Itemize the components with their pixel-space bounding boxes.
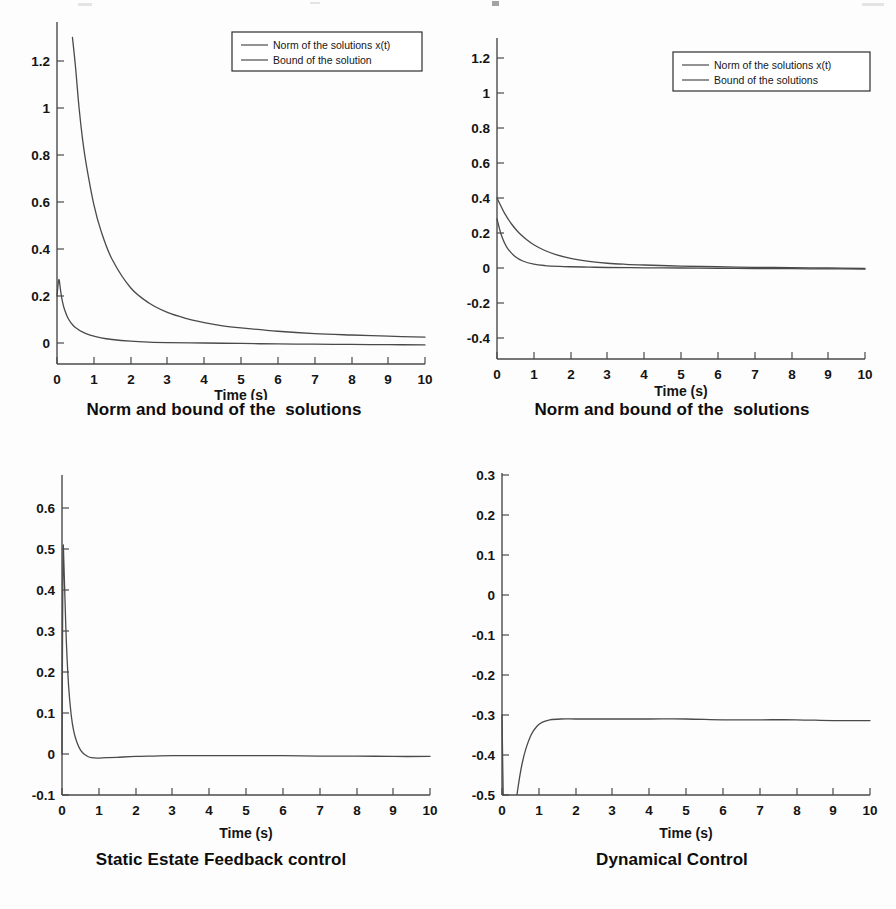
y-tick-label: 0 xyxy=(482,261,490,276)
y-tick-label: -0.2 xyxy=(467,296,490,311)
x-tick-label: 1 xyxy=(535,803,543,818)
x-tick-label: 3 xyxy=(163,372,171,387)
x-tick-label: 7 xyxy=(756,803,764,818)
x-tick-label: 9 xyxy=(384,372,392,387)
x-tick-label: 10 xyxy=(857,367,872,382)
x-tick-label: 4 xyxy=(205,803,213,818)
y-tick-label: 0.2 xyxy=(31,289,50,304)
y-tick-label: -0.5 xyxy=(472,788,496,803)
y-tick-label: 0 xyxy=(47,747,55,762)
x-tick-label: 0 xyxy=(498,803,506,818)
x-tick-label: 4 xyxy=(640,367,648,382)
y-tick-labels-4: -0.5 -0.4 -0.3 -0.2 -0.1 0 0.1 0.2 0.3 xyxy=(472,468,496,803)
x-tick-label: 8 xyxy=(353,803,361,818)
axes-3 xyxy=(62,475,430,795)
x-tick-label: 6 xyxy=(279,803,287,818)
series-line-2 xyxy=(497,198,865,269)
legend-label-norm: Norm of the solutions x(t) xyxy=(273,39,390,51)
y-tick-label: 1 xyxy=(42,101,50,116)
panel-static-feedback: -0.1 0 0.1 0.2 0.3 0.4 0.5 0.6 xyxy=(0,455,448,909)
legend-label-bound: Bound of the solutions xyxy=(714,74,818,86)
x-tick-label: 10 xyxy=(422,803,437,818)
x-axis-title: Time (s) xyxy=(659,825,712,841)
x-tick-label: 5 xyxy=(677,367,685,382)
x-tick-labels-2: 0 1 2 3 4 5 6 7 8 9 10 xyxy=(493,367,872,382)
y-tick-labels-2: -0.4 -0.2 0 0.2 0.4 0.6 0.8 1 1.2 xyxy=(467,51,491,346)
axes-1 xyxy=(57,22,425,364)
plot-svg-3: -0.1 0 0.1 0.2 0.3 0.4 0.5 0.6 xyxy=(0,455,448,850)
y-tick-label: -0.4 xyxy=(472,748,496,763)
x-tick-label: 8 xyxy=(788,367,796,382)
x-tick-label: 6 xyxy=(719,803,727,818)
x-tick-label: 7 xyxy=(311,372,319,387)
y-tick-label: -0.2 xyxy=(472,668,495,683)
x-tick-label: 8 xyxy=(793,803,801,818)
x-ticks-3 xyxy=(62,788,430,795)
x-ticks-1 xyxy=(57,357,425,364)
y-tick-label: 1.2 xyxy=(31,54,50,69)
series-line-1 xyxy=(62,545,430,758)
y-tick-label: -0.3 xyxy=(472,708,496,723)
y-tick-label: 0.6 xyxy=(471,156,490,171)
x-axis-title: Time (s) xyxy=(214,387,267,400)
y-tick-label: 0.2 xyxy=(476,508,495,523)
x-tick-labels-4: 0 1 2 3 4 5 6 7 8 9 10 xyxy=(498,803,877,818)
panel-caption-1: Norm and bound of the solutions xyxy=(86,400,361,420)
x-tick-label: 5 xyxy=(237,372,245,387)
y-tick-label: 0.6 xyxy=(36,501,55,516)
y-tick-label: 1 xyxy=(482,86,490,101)
y-tick-label: 0.2 xyxy=(471,226,490,241)
y-tick-label: 0.2 xyxy=(36,665,55,680)
series-line-2 xyxy=(72,38,425,338)
y-tick-label: 0.4 xyxy=(36,583,55,598)
x-tick-label: 9 xyxy=(824,367,832,382)
x-tick-label: 2 xyxy=(572,803,580,818)
series-line-1 xyxy=(497,219,865,269)
plot-area-3: -0.1 0 0.1 0.2 0.3 0.4 0.5 0.6 xyxy=(0,455,448,850)
y-tick-label: -0.1 xyxy=(472,628,496,643)
plot-svg-2: -0.4 -0.2 0 0.2 0.4 0.6 0.8 1 1.2 xyxy=(448,0,896,400)
x-tick-label: 10 xyxy=(417,372,432,387)
x-axis-title: Time (s) xyxy=(219,825,272,841)
y-tick-label: 0.1 xyxy=(36,706,55,721)
x-ticks-4 xyxy=(502,788,870,795)
plot-area-4: -0.5 -0.4 -0.3 -0.2 -0.1 0 0.1 0.2 0.3 xyxy=(448,455,896,850)
y-tick-label: -0.1 xyxy=(32,788,56,803)
y-tick-label: 0.8 xyxy=(471,121,490,136)
y-tick-label: 0 xyxy=(487,588,495,603)
x-tick-label: 0 xyxy=(493,367,501,382)
y-tick-label: 0.4 xyxy=(31,242,50,257)
y-tick-label: 0.4 xyxy=(471,191,490,206)
x-tick-label: 3 xyxy=(608,803,616,818)
y-tick-label: -0.4 xyxy=(467,331,491,346)
x-tick-label: 9 xyxy=(389,803,397,818)
series-layer-1 xyxy=(57,38,425,345)
x-tick-label: 3 xyxy=(603,367,611,382)
y-tick-label: 0.8 xyxy=(31,148,50,163)
x-tick-label: 0 xyxy=(58,803,66,818)
x-tick-label: 10 xyxy=(862,803,877,818)
x-tick-label: 2 xyxy=(567,367,575,382)
plot-area-1: 0 0.2 0.4 0.6 0.8 1 1.2 xyxy=(0,0,448,400)
x-tick-label: 2 xyxy=(132,803,140,818)
legend-2: Norm of the solutions x(t) Bound of the … xyxy=(673,52,870,91)
panel-grid: 0 0.2 0.4 0.6 0.8 1 1.2 xyxy=(0,0,896,909)
y-tick-label: 0.6 xyxy=(31,195,50,210)
y-ticks-2 xyxy=(497,58,504,338)
panel-dynamical-control: -0.5 -0.4 -0.3 -0.2 -0.1 0 0.1 0.2 0.3 xyxy=(448,455,896,909)
axes-4 xyxy=(502,473,870,795)
panel-caption-4: Dynamical Control xyxy=(596,850,748,870)
y-tick-labels-1: 0 0.2 0.4 0.6 0.8 1 1.2 xyxy=(31,54,50,351)
x-tick-label: 8 xyxy=(348,372,356,387)
legend-label-bound: Bound of the solution xyxy=(273,54,372,66)
series-layer-3 xyxy=(62,545,430,758)
panel-caption-2: Norm and bound of the solutions xyxy=(534,400,809,420)
panel-caption-3: Static Estate Feedback control xyxy=(96,850,347,870)
x-tick-label: 3 xyxy=(168,803,176,818)
legend-1: Norm of the solutions x(t) Bound of the … xyxy=(232,32,422,71)
plot-svg-1: 0 0.2 0.4 0.6 0.8 1 1.2 xyxy=(0,0,448,400)
x-tick-label: 7 xyxy=(316,803,324,818)
legend-label-norm: Norm of the solutions x(t) xyxy=(714,59,831,71)
x-tick-label: 4 xyxy=(645,803,653,818)
y-tick-label: 1.2 xyxy=(471,51,490,66)
